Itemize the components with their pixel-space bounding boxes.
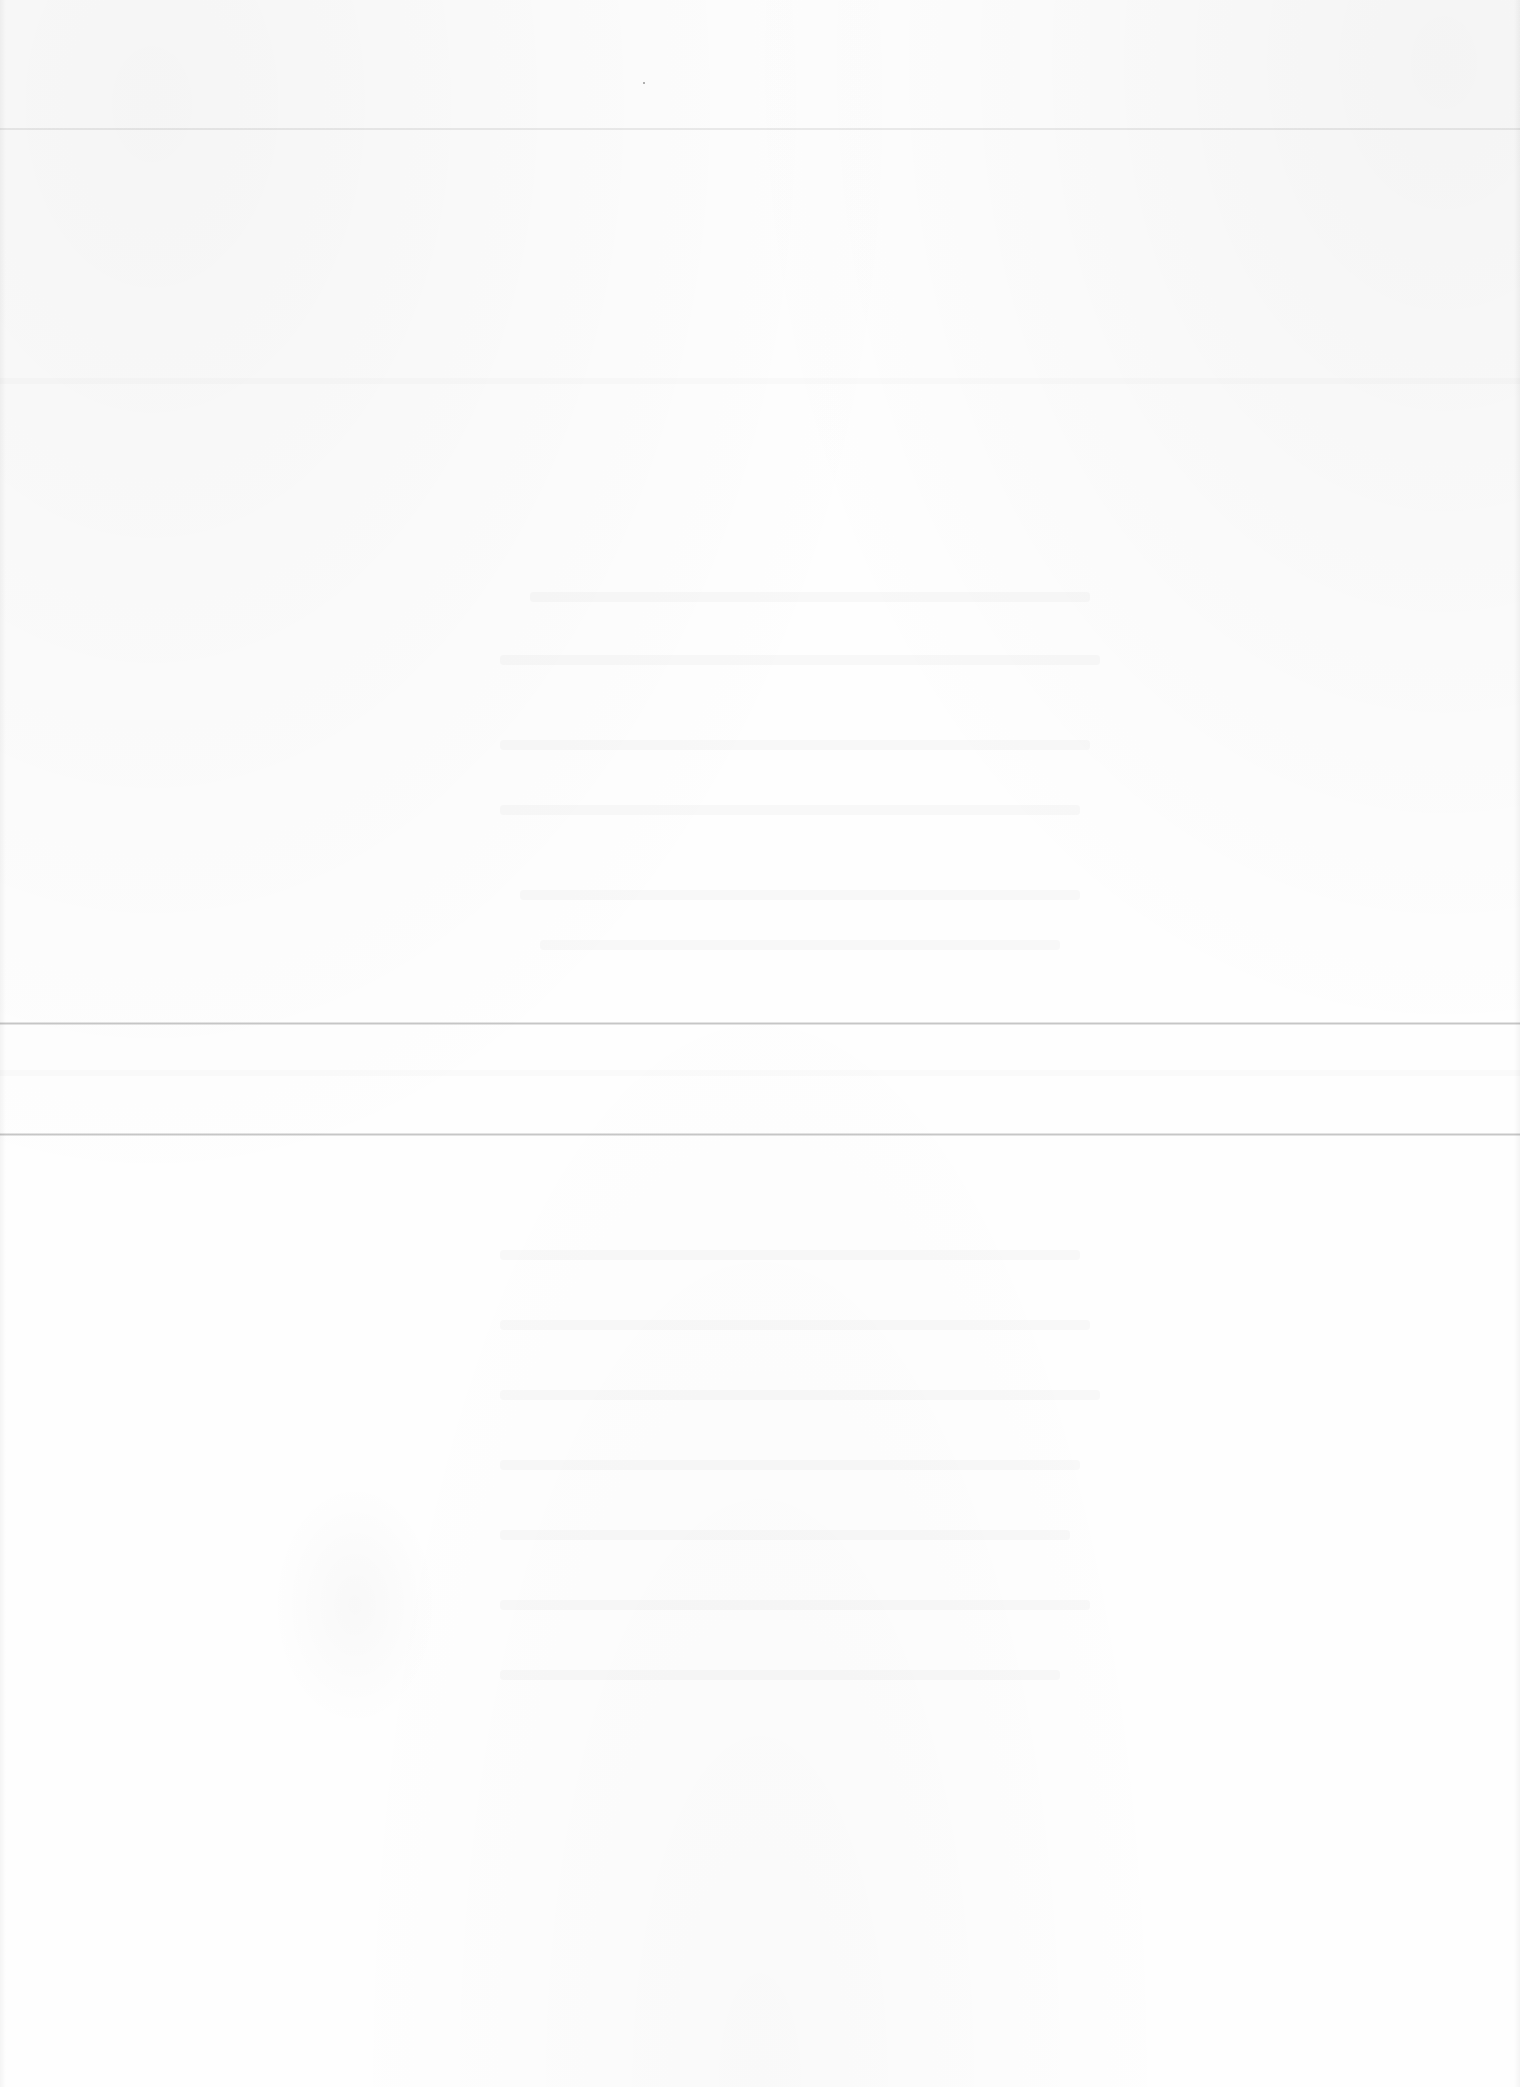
show-through-text-line [500,1320,1090,1330]
show-through-text-line [500,1460,1080,1470]
faint-rule-show-through [0,378,1520,384]
show-through-text-line [500,740,1090,750]
show-through-text-line [500,1530,1070,1540]
show-through-text-line [500,1670,1060,1680]
fold-crease-middle-lower [0,1133,1520,1136]
show-through-text-line [520,890,1080,900]
faint-rule-show-through [0,1070,1520,1076]
show-through-text-line [500,1250,1080,1260]
show-through-text-line [500,1390,1100,1400]
show-through-illustration [270,1480,440,1730]
show-through-text-line [500,1600,1090,1610]
fold-crease-top [0,128,1520,130]
fold-crease-middle-upper [0,1022,1520,1025]
page-edge-shadow-right [1514,0,1520,2087]
blank-paper-page [0,0,1520,2087]
show-through-text-line [540,940,1060,950]
ink-speck [643,82,645,84]
show-through-text-line [500,655,1100,665]
show-through-text-line [500,805,1080,815]
mirrored-title-show-through [290,205,1320,315]
page-edge-shadow-left [0,0,6,2087]
show-through-text-line [530,592,1090,602]
